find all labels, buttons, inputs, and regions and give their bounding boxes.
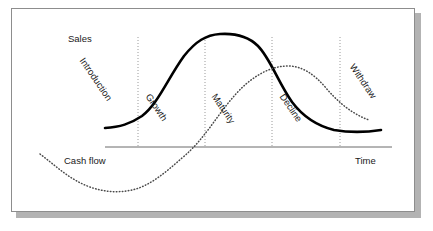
series-label-cash-flow: Cash flow xyxy=(64,156,106,166)
cash-flow-curve xyxy=(40,66,369,192)
chart-canvas xyxy=(0,0,433,231)
axis-label-time: Time xyxy=(355,156,376,166)
product-life-cycle-figure: Sales Cash flow Time Introduction Growth… xyxy=(0,0,433,231)
axis-label-sales: Sales xyxy=(68,34,92,44)
